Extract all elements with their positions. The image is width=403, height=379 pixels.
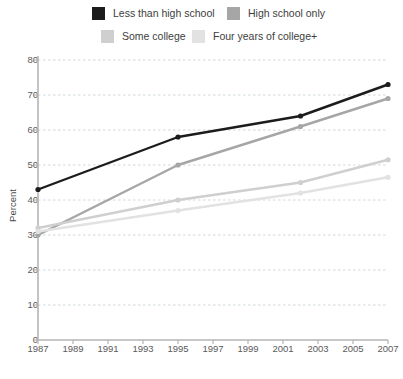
x-tick-1987: 1987: [18, 344, 58, 354]
legend-item-high-school-only[interactable]: High school only: [227, 7, 325, 20]
x-tick-1995: 1995: [158, 344, 198, 354]
x-tick-2007: 2007: [368, 344, 403, 354]
x-tick-1989: 1989: [53, 344, 93, 354]
x-tick-2001: 2001: [263, 344, 303, 354]
legend-swatch-four-years-of-college: [192, 30, 205, 43]
chart-legend: Less than high school High school only S…: [0, 0, 394, 52]
x-tick-1991: 1991: [88, 344, 128, 354]
legend-item-four-years-of-college[interactable]: Four years of college+: [192, 30, 317, 43]
x-tick-2005: 2005: [333, 344, 373, 354]
grid-lines: [38, 60, 388, 305]
x-axis-tick-labels: 1987198919911993199519971999200120032005…: [0, 340, 394, 366]
plot-area: Percent 80706050403020100 19871989199119…: [0, 52, 394, 379]
legend-label-less-than-high-school: Less than high school: [113, 7, 215, 20]
legend-swatch-some-college: [101, 30, 114, 43]
legend-swatch-less-than-high-school: [92, 7, 105, 20]
legend-label-high-school-only: High school only: [248, 7, 325, 20]
series-markers: [35, 82, 390, 238]
legend-label-four-years-of-college: Four years of college+: [213, 30, 317, 43]
x-tick-1993: 1993: [123, 344, 163, 354]
chart-canvas: [0, 52, 394, 379]
legend-swatch-high-school-only: [227, 7, 240, 20]
legend-item-some-college[interactable]: Some college: [101, 30, 186, 43]
legend-item-less-than-high-school[interactable]: Less than high school: [92, 7, 215, 20]
series-lines: [38, 85, 388, 236]
x-tick-2003: 2003: [298, 344, 338, 354]
legend-label-some-college: Some college: [122, 30, 186, 43]
x-tick-1999: 1999: [228, 344, 268, 354]
x-tick-1997: 1997: [193, 344, 233, 354]
